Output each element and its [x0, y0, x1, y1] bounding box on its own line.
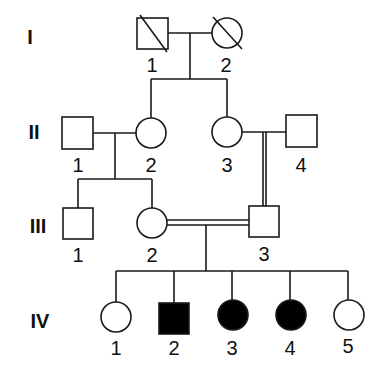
female-circle	[334, 300, 364, 330]
individual-number: 1	[72, 244, 83, 266]
individual-II-4[interactable]: 4	[286, 115, 317, 176]
individual-IV-5[interactable]: 5	[334, 300, 364, 357]
generation-label-II: II	[28, 121, 39, 143]
individual-II-1[interactable]: 1	[62, 117, 93, 176]
male-square	[286, 115, 317, 147]
individual-number: 5	[342, 335, 353, 357]
individual-IV-1[interactable]: 1	[101, 302, 131, 359]
individual-number: 3	[258, 243, 269, 265]
affected-female-circle	[276, 300, 306, 330]
female-circle	[101, 302, 131, 332]
individual-number: 4	[284, 337, 295, 359]
individual-I-1[interactable]: 1	[137, 15, 168, 76]
individual-number: 1	[72, 154, 83, 176]
individual-number: 2	[220, 54, 231, 76]
individual-number: 3	[221, 154, 232, 176]
individual-number: 1	[110, 337, 121, 359]
individual-number: 2	[145, 154, 156, 176]
generation-label-IV: IV	[31, 310, 51, 332]
individual-III-1[interactable]: 1	[63, 208, 93, 266]
individual-I-2[interactable]: 2	[212, 17, 242, 76]
individual-II-2[interactable]: 2	[136, 118, 166, 176]
male-square	[63, 208, 93, 239]
individual-III-2[interactable]: 2	[137, 208, 167, 266]
generation-label-III: III	[30, 215, 47, 237]
individual-number: 4	[295, 154, 306, 176]
male-square	[137, 18, 168, 49]
individual-IV-2[interactable]: 2	[159, 303, 189, 359]
generation-label-I: I	[27, 26, 33, 48]
individual-II-3[interactable]: 3	[212, 117, 242, 176]
mating-line-II3-II4	[242, 132, 286, 206]
individual-IV-3[interactable]: 3	[218, 300, 248, 359]
male-square	[249, 206, 279, 237]
affected-female-circle	[218, 300, 248, 330]
individual-III-3[interactable]: 3	[249, 206, 279, 265]
individual-number: 3	[226, 337, 237, 359]
individual-number: 2	[168, 337, 179, 359]
pedigree-chart: I II III IV 1 2 1 2	[0, 0, 389, 379]
affected-male-square	[159, 303, 189, 334]
individual-number: 2	[146, 244, 157, 266]
female-circle	[136, 118, 166, 148]
female-circle	[212, 117, 242, 147]
female-circle	[137, 208, 167, 238]
male-square	[62, 117, 93, 149]
individual-number: 1	[146, 54, 157, 76]
individual-IV-4[interactable]: 4	[276, 300, 306, 359]
